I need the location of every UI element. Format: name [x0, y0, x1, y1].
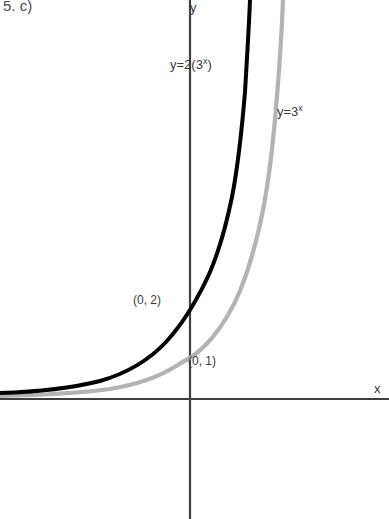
curve-label-gray: y=3x — [277, 105, 303, 118]
curve-label-black-close: ) — [207, 57, 211, 72]
curve-label-black-base: y=2(3 — [170, 57, 203, 72]
graph-canvas — [0, 0, 389, 519]
point-label-0-1: (0, 1) — [188, 355, 216, 367]
curve-label-gray-base: y=3 — [277, 104, 298, 119]
y-axis-label: y — [190, 1, 197, 14]
curve-label-gray-exponent: x — [298, 103, 303, 113]
curve-y-equals-2-times-3-to-the-x — [0, 0, 250, 393]
problem-number-label: 5. c) — [3, 0, 32, 13]
curve-label-black: y=2(3x) — [170, 58, 212, 71]
x-axis-label: x — [374, 382, 381, 395]
figure-container: 5. c) y x y=2(3x) y=3x (0, 2) (0, 1) — [0, 0, 389, 519]
point-label-0-2: (0, 2) — [133, 294, 161, 306]
curve-y-equals-3-to-the-x — [0, 0, 283, 396]
